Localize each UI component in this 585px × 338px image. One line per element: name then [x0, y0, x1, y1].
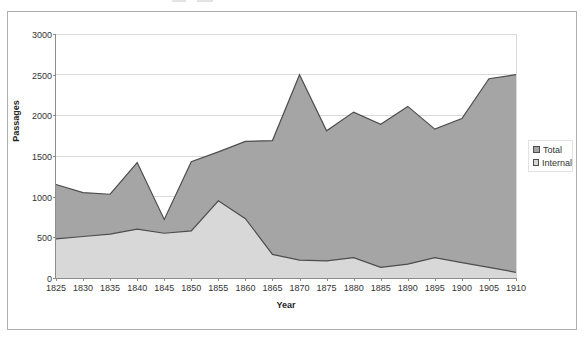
y-tick-label: 1500	[20, 152, 52, 162]
x-tick-label: 1895	[420, 283, 450, 293]
y-tick-label: 500	[20, 233, 52, 243]
y-tick-label: 3000	[20, 30, 52, 40]
x-tick-label: 1900	[447, 283, 477, 293]
plot-area	[49, 33, 520, 284]
x-tick-label: 1885	[366, 283, 396, 293]
total-series-swatch	[533, 146, 540, 153]
x-tick-label: 1880	[339, 283, 369, 293]
legend-label-total: Total	[543, 145, 562, 155]
x-tick-label: 1850	[176, 283, 206, 293]
x-axis-title: Year	[236, 300, 336, 310]
y-tick-label: 2500	[20, 71, 52, 81]
x-tick-label: 1890	[393, 283, 423, 293]
legend-label-internal: Internal	[542, 158, 572, 168]
y-tick-label: 1000	[20, 193, 52, 203]
x-tick-label: 1855	[203, 283, 233, 293]
x-tick-label: 1910	[501, 283, 531, 293]
x-tick-label: 1860	[230, 283, 260, 293]
y-tick-label: 2000	[20, 111, 52, 121]
x-tick-label: 1865	[257, 283, 287, 293]
internal-series-swatch	[533, 159, 539, 166]
x-tick-label: 1825	[41, 283, 71, 293]
x-tick-label: 1905	[474, 283, 504, 293]
x-tick-label: 1840	[122, 283, 152, 293]
legend-item-internal: Internal	[533, 158, 572, 168]
x-tick-label: 1870	[285, 283, 315, 293]
chart-frame: Passages Year 050010001500200025003000 1…	[7, 11, 577, 330]
x-tick-label: 1835	[95, 283, 125, 293]
chart-screenshot: Passages Year 050010001500200025003000 1…	[0, 0, 585, 338]
legend: Total Internal	[528, 140, 573, 172]
x-tick-label: 1845	[149, 283, 179, 293]
x-tick-label: 1830	[68, 283, 98, 293]
legend-item-total: Total	[533, 145, 572, 155]
x-tick-label: 1875	[312, 283, 342, 293]
